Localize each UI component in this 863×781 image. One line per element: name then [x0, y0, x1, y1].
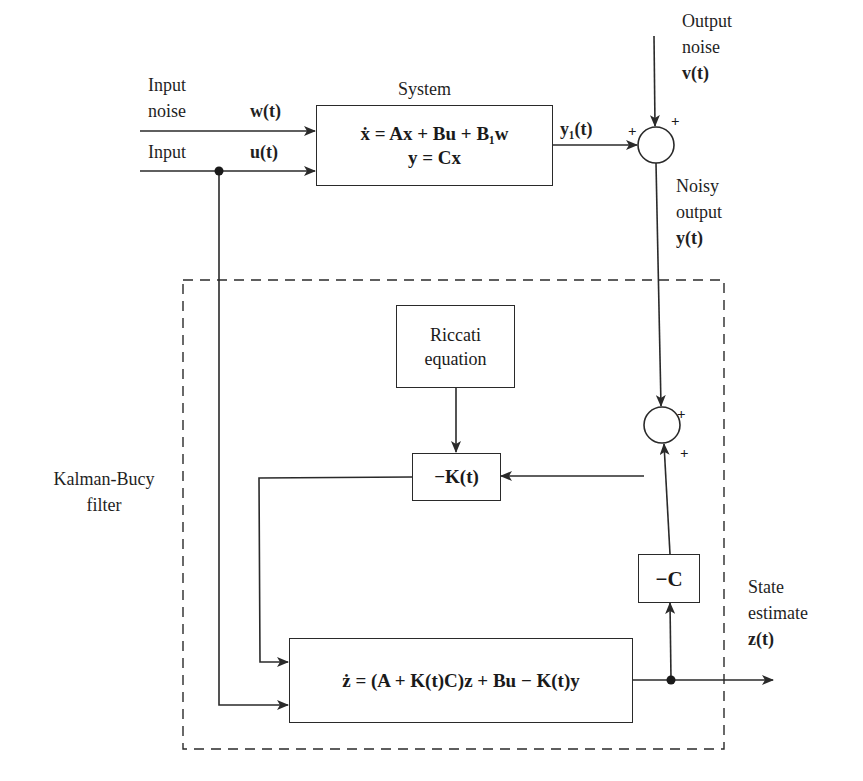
system-output-equation: y = Cx — [408, 146, 461, 170]
state-estimate-label-line1: State — [748, 574, 808, 600]
output-noise-label-line2: noise — [682, 34, 732, 60]
filter-label-line1: Kalman-Bucy — [34, 466, 174, 492]
filter-label-line2: filter — [34, 492, 174, 518]
noisy-output-label: Noisy output y(t) — [676, 173, 722, 251]
sum2-plus-bottom: + — [680, 446, 689, 461]
input-noise-label-line2: noise — [148, 100, 186, 122]
riccati-label-line2: equation — [425, 347, 487, 371]
input-junction-dot — [215, 167, 224, 176]
sum1-plus-top: + — [671, 114, 680, 129]
sum1-plus-left: + — [628, 124, 637, 139]
input-feed-to-estimator — [219, 171, 288, 705]
input-noise-label-line1: Input — [148, 74, 186, 96]
input-noise-label: Input noise — [148, 74, 186, 122]
noisy-output-label-line2: output — [676, 199, 722, 225]
estimate-to-c-arrow — [670, 603, 671, 680]
riccati-label-line1: Riccati — [430, 323, 481, 347]
state-estimate-signal: z(t) — [748, 626, 808, 652]
estimator-block: ż = (A + K(t)C)z + Bu − K(t)y — [289, 638, 633, 723]
sum2-plus-top: + — [677, 407, 686, 422]
noisy-output-label-line1: Noisy — [676, 173, 722, 199]
system-block: ẋ = Ax + Bu + B₁w y = Cx — [316, 105, 553, 186]
output-junction-dot — [667, 676, 676, 685]
noisy-output-signal: y(t) — [676, 225, 722, 251]
state-estimate-label: State estimate z(t) — [748, 574, 808, 652]
input-noise-signal: w(t) — [250, 100, 281, 122]
noisy-output-line — [656, 163, 661, 406]
output-noise-label: Output noise v(t) — [682, 8, 732, 86]
state-estimate-label-line2: estimate — [748, 600, 808, 626]
system-title: System — [398, 78, 451, 100]
gain-to-estimator-arrow — [259, 477, 412, 662]
input-signal: u(t) — [250, 141, 278, 163]
output-noise-arrow — [654, 36, 655, 126]
summing-junction-2 — [644, 407, 680, 443]
gain-block: −K(t) — [412, 453, 501, 501]
gain-label: −K(t) — [434, 465, 479, 489]
input-label: Input — [148, 141, 186, 163]
c-to-sum-arrow — [664, 444, 670, 554]
riccati-equation-block: Riccati equation — [396, 305, 515, 388]
estimator-equation: ż = (A + K(t)C)z + Bu − K(t)y — [342, 669, 579, 693]
system-output-signal: y₁(t) — [560, 118, 592, 140]
output-noise-signal: v(t) — [682, 60, 732, 86]
output-matrix-label: −C — [655, 567, 682, 591]
summing-junction-1 — [638, 127, 674, 163]
kalman-bucy-filter-label: Kalman-Bucy filter — [34, 466, 174, 518]
system-state-equation: ẋ = Ax + Bu + B₁w — [361, 122, 509, 146]
output-noise-label-line1: Output — [682, 8, 732, 34]
output-matrix-block: −C — [638, 554, 700, 603]
